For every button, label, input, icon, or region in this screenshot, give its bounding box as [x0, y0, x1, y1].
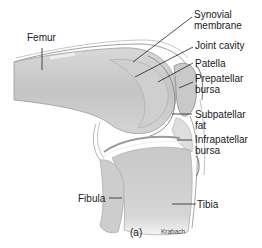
label-tibia: Tibia	[197, 199, 218, 210]
label-prepatellar-bursa-line1: Prepatellar	[195, 73, 243, 84]
label-joint-cavity: Joint cavity	[195, 40, 244, 51]
subpatellar-fat-shape	[172, 118, 192, 152]
label-subpatellar-fat-line2: fat	[195, 120, 206, 131]
panel-label: (a)	[130, 227, 142, 238]
label-infrapatellar-bursa-line1: Infrapatellar	[195, 134, 248, 145]
label-patella: Patella	[195, 58, 226, 69]
label-synovial-membrane-line1: Synovial	[194, 9, 232, 20]
label-infrapatellar-bursa-line2: bursa	[195, 145, 220, 156]
leader-synovial-membrane	[133, 17, 192, 62]
label-synovial-membrane-line2: membrane	[194, 20, 242, 31]
label-prepatellar-bursa-line2: bursa	[195, 84, 220, 95]
label-femur: Femur	[27, 32, 56, 43]
illustrator-credit: Krabach	[161, 226, 185, 237]
label-fibula: Fibula	[78, 193, 105, 204]
label-subpatellar-fat-line1: Subpatellar	[195, 109, 246, 120]
